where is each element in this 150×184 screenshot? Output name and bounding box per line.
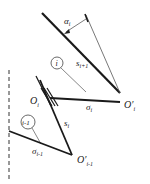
link-s-next	[42, 13, 120, 93]
alpha-label: αi	[64, 16, 71, 27]
s-i-label: si	[64, 118, 70, 129]
O-prime-prev-label: O′i-1	[77, 154, 93, 167]
diagram-svg: αi i si+1 σi O′i Oi si i-1 σi-1 O′i-1	[0, 0, 150, 184]
alpha-reference-line	[86, 15, 120, 93]
joint-hatch-4	[47, 88, 58, 106]
link-sigma-i	[50, 98, 120, 102]
circle-i-minus-1-label: i-1	[22, 119, 30, 127]
sigma-i-label: σi	[86, 102, 92, 113]
alpha-arrowhead-icon	[64, 29, 70, 34]
sigma-prev-label: σi-1	[32, 146, 43, 157]
link-geometry-diagram: αi i si+1 σi O′i Oi si i-1 σi-1 O′i-1	[0, 0, 150, 184]
circle-i-leader	[61, 68, 86, 92]
O-prime-i-label: O′i	[124, 99, 135, 112]
O-i-label: Oi	[30, 95, 39, 108]
circle-i-label: i	[56, 59, 58, 68]
